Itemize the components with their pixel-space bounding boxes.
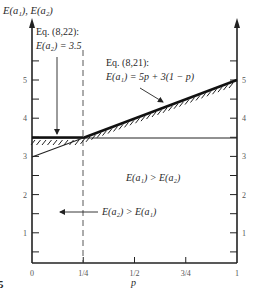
eq-822-label: Eq. (8,22): <box>36 26 79 38</box>
y-tick-label-left: 5 <box>23 76 27 85</box>
eq-821-label: Eq. (8,21): <box>106 57 149 69</box>
expected-value-diagram: E(a₁), E(a₂) 01/41/23/411122334455 Eq. (… <box>0 0 253 292</box>
eq-821-equation: E(a₁) = 5p + 3(1 − p) <box>105 71 195 83</box>
x-tick-label: 1 <box>235 269 239 278</box>
eq-821-pointer-arrow <box>140 88 163 102</box>
figure-number-fragment: 5 <box>0 278 4 290</box>
y-tick-label-left: 2 <box>23 191 27 200</box>
line-e-a1-bold <box>83 80 237 138</box>
y-tick-label-left: 3 <box>23 152 27 161</box>
x-tick-label: 1/4 <box>78 269 88 278</box>
right-axis-arrow-icon <box>234 18 240 28</box>
y-axis-label: E(a₁), E(a₂) <box>2 5 53 17</box>
y-tick-label-right: 1 <box>242 229 246 238</box>
y-tick-label-right: 4 <box>242 114 246 123</box>
x-axis-label: p <box>130 277 136 288</box>
left-axis-arrow-icon <box>29 18 35 28</box>
y-tick-label-right: 2 <box>242 191 246 200</box>
x-tick-label: 0 <box>30 269 34 278</box>
x-tick-label: 3/4 <box>181 269 191 278</box>
y-tick-label-right: 5 <box>242 76 246 85</box>
y-tick-label-left: 1 <box>23 229 27 238</box>
region-label-a2-greater: E(a₂) > E(a₁) <box>101 206 157 218</box>
y-tick-label-left: 4 <box>23 114 27 123</box>
region-label-a1-greater: E(a₁) > E(a₂) <box>125 172 181 184</box>
eq-822-equation: E(a₂) = 3.5 <box>35 40 82 52</box>
y-tick-label-right: 3 <box>242 152 246 161</box>
